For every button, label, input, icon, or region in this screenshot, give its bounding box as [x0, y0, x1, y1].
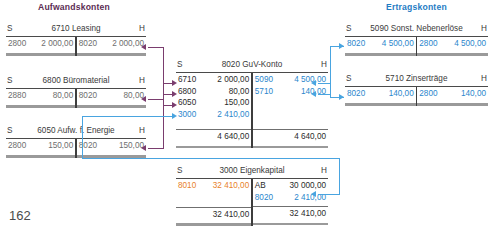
arrowhead-5710: [339, 94, 344, 100]
entry-key: 8020: [79, 39, 97, 48]
closing-bar: [417, 53, 488, 56]
entry-row: 6800 80,00: [176, 87, 251, 99]
account-5710-zinsertraege: S 5710 Zinserträge H 8020 140,00 2800 14…: [345, 74, 488, 106]
heading-revenue-accounts: Ertragskonten: [386, 2, 447, 12]
connector-6710-to-guv: [148, 47, 164, 48]
heading-expense-accounts: Aufwandskonten: [38, 2, 110, 12]
entry-row: 8010 32 410,00: [176, 181, 251, 193]
credit-label: H: [321, 60, 327, 69]
closing-bar: [6, 53, 75, 56]
account-header: S 6800 Büromaterial H: [6, 76, 146, 88]
entry-key: 2800: [419, 89, 437, 98]
entry-row: 8020 2 000,00: [77, 39, 146, 51]
closing-bar: [176, 146, 251, 149]
total-amount: 4 640,00: [294, 132, 326, 141]
arrowhead-5090: [339, 43, 344, 49]
closing-bar: [6, 105, 75, 108]
connector-ek-vertical-right: [339, 158, 340, 195]
connector-5710-to-guv: [318, 94, 331, 95]
total-rule: [176, 129, 251, 130]
account-body: 2800 150,00 8020 150,00: [6, 139, 146, 158]
credit-label: H: [481, 24, 487, 33]
connector-ek-horizontal-top: [82, 158, 340, 159]
arrowhead-6800: [141, 96, 146, 102]
account-title: 6050 Aufw. f. Energie: [6, 126, 146, 135]
closing-bar: [6, 155, 75, 158]
entry-amount: 150,00: [48, 141, 73, 150]
entry-row: 6710 2 000,00: [176, 75, 251, 87]
debit-side: 2800 150,00: [6, 139, 75, 158]
arrowhead-guv-6710: [172, 80, 177, 86]
arrowhead-guv-5710: [311, 91, 316, 97]
credit-side: 8020 2 000,00: [77, 37, 146, 56]
entry-row: 2800 140,00: [417, 89, 488, 101]
closing-bar: [417, 103, 488, 106]
arrowhead-ek-8020: [311, 191, 316, 197]
entry-key: 8020: [347, 39, 365, 48]
entry-amount: 2 000,00: [217, 75, 249, 84]
account-title: 6710 Leasing: [6, 24, 146, 33]
entry-key: 2800: [419, 39, 437, 48]
entry-key: 5710: [255, 87, 273, 96]
connector-ek-vertical-left: [82, 116, 83, 159]
entry-key: 8020: [347, 89, 365, 98]
account-6800-bueromaterial: S 6800 Büromaterial H 2880 80,00 8020 80…: [6, 76, 146, 108]
account-body: 2880 80,00 8020 80,00: [6, 89, 146, 108]
account-body: 8010 32 410,00 32 410,00 AB 30 000,00 8: [176, 179, 328, 226]
entry-key: 8020: [255, 193, 273, 202]
total-rule: [253, 129, 328, 130]
account-5090-nebenerloese: S 5090 Sonst. Nebenerlöse H 8020 4 500,0…: [345, 24, 488, 56]
entry-key: 8020: [79, 91, 97, 100]
entry-key: 6710: [178, 75, 196, 84]
entry-row: 8020 4 500,00: [345, 39, 416, 51]
credit-side: AB 30 000,00 8020 2 410,00 32 410,00: [253, 179, 328, 226]
total-row: 32 410,00: [253, 209, 328, 221]
credit-label: H: [139, 126, 145, 135]
entry-amount: 140,00: [461, 89, 486, 98]
entry-row: 2800 150,00: [6, 141, 75, 153]
diagram-canvas: Aufwandskonten Ertragskonten S 6710 Leas…: [0, 0, 492, 238]
account-body: 2800 2 000,00 8020 2 000,00: [6, 37, 146, 56]
account-header: S 8020 GuV-Konto H: [176, 60, 328, 72]
entry-key: 2800: [8, 39, 26, 48]
entry-amount: 2 410,00: [217, 110, 249, 119]
connector-6800-to-guv: [148, 99, 164, 100]
entry-key: 2800: [8, 141, 26, 150]
entry-key: 6800: [178, 87, 196, 96]
credit-side: 5090 4 500,00 5710 140,00 4 640,00: [253, 73, 328, 148]
closing-bar: [77, 105, 146, 108]
entry-amount: 2 000,00: [112, 39, 144, 48]
account-title: 3000 Eigenkapital: [176, 166, 328, 175]
entry-amount: 2 000,00: [41, 39, 73, 48]
connector-revenue-trunk: [330, 46, 331, 98]
total-rule: [253, 206, 328, 207]
closing-bar: [345, 103, 416, 106]
credit-side: 8020 150,00: [77, 139, 146, 158]
arrowhead-guv-6800: [172, 91, 177, 97]
entry-key: AB: [255, 181, 266, 190]
account-8020-guv: S 8020 GuV-Konto H 6710 2 000,00 6800 80…: [176, 60, 328, 148]
credit-label: H: [139, 24, 145, 33]
debit-side: 2880 80,00: [6, 89, 75, 108]
entry-amount: 150,00: [224, 98, 249, 107]
entry-row: 6050 150,00: [176, 98, 251, 110]
entry-key: 8010: [178, 181, 196, 190]
debit-side: 8020 4 500,00: [345, 37, 416, 56]
connector-ek-to-guv-3000: [82, 116, 174, 117]
entry-amount: 30 000,00: [290, 181, 326, 190]
account-3000-eigenkapital: S 3000 Eigenkapital H 8010 32 410,00 32 …: [176, 166, 328, 226]
entry-key: 5090: [255, 75, 273, 84]
closing-bar: [253, 146, 328, 149]
total-amount: 32 410,00: [213, 210, 249, 219]
entry-amount: 80,00: [229, 87, 250, 96]
entry-key: 3000: [178, 110, 196, 119]
total-row: 4 640,00: [253, 132, 328, 144]
total-row: 4 640,00: [176, 132, 251, 144]
connector-5090-to-guv: [318, 83, 331, 84]
entry-row: 8020 80,00: [77, 91, 146, 103]
credit-side: 2800 140,00: [417, 87, 488, 106]
connector-expense-trunk: [163, 47, 164, 148]
total-amount: 32 410,00: [290, 209, 326, 218]
entry-row: 5090 4 500,00: [253, 75, 328, 87]
credit-side: 8020 80,00: [77, 89, 146, 108]
